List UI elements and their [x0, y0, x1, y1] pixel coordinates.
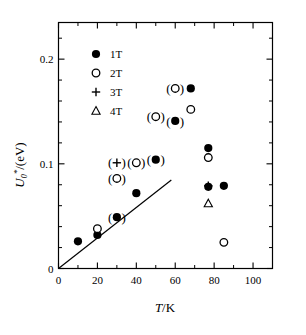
legend: 1T2T3T4T [92, 48, 123, 117]
y-tick-label: 0.2 [40, 53, 54, 65]
y-axis-title: U0*/(eV) [12, 142, 29, 187]
data-point-1t [132, 189, 140, 197]
data-point-1t [152, 156, 160, 164]
y-tick-label: 0.1 [40, 158, 54, 170]
paren-left: ( [166, 114, 170, 129]
paren-left: ( [108, 210, 112, 225]
data-point-1t [220, 182, 228, 190]
x-axis-major-ticks [59, 23, 254, 269]
paren-left: ( [147, 152, 151, 167]
plot-frame [59, 23, 273, 269]
legend-marker-3t [92, 88, 100, 96]
data-point-2t [94, 225, 102, 233]
x-tick-label: 60 [170, 274, 182, 286]
legend-marker-1t [92, 50, 100, 58]
data-point-2t [113, 175, 121, 183]
paren-right: ) [160, 109, 164, 124]
paren-right: ) [180, 114, 184, 129]
x-tick-label: 40 [131, 274, 143, 286]
data-point-1t [113, 213, 121, 221]
legend-label-3t: 3T [110, 86, 123, 98]
data-point-1t [204, 144, 212, 152]
y-tick-label: 0 [48, 263, 54, 275]
svg-text:U0*/(eV): U0*/(eV) [12, 142, 29, 187]
data-point-1t [74, 237, 82, 245]
data-point-2t [171, 85, 179, 93]
paren-left: ( [166, 81, 170, 96]
data-point-4t [204, 199, 212, 207]
legend-label-1t: 1T [110, 48, 123, 60]
paren-left: ( [108, 155, 112, 170]
data-point-2t [205, 154, 213, 162]
paren-right: ) [121, 155, 125, 170]
legend-label-2t: 2T [110, 67, 123, 79]
legend-label-4t: 4T [110, 105, 123, 117]
data-point-1t [171, 117, 179, 125]
x-tick-label: 100 [245, 274, 262, 286]
y-axis-tick-labels: 00.10.2 [40, 53, 54, 274]
paren-left: ( [108, 171, 112, 186]
legend-marker-2t [92, 69, 100, 77]
data-point-markers: ()()()()()()()() [74, 81, 228, 246]
data-point-2t [152, 113, 160, 121]
paren-left: ( [127, 155, 131, 170]
data-point-2t [133, 159, 141, 167]
x-tick-label: 80 [209, 274, 221, 286]
data-point-1t [187, 84, 195, 92]
paren-right: ) [121, 210, 125, 225]
x-tick-label: 0 [56, 274, 62, 286]
x-tick-label: 20 [92, 274, 104, 286]
y-axis-title-units: /(eV) [12, 142, 27, 169]
paren-right: ) [141, 155, 145, 170]
x-axis-tick-labels: 020406080100 [56, 274, 262, 286]
figure-container: 020406080100 00.10.2 ()()()()()()()() 1T… [0, 0, 306, 335]
scatter-plot: 020406080100 00.10.2 ()()()()()()()() 1T… [0, 0, 306, 335]
x-axis-title: T/K [155, 300, 176, 315]
paren-right: ) [180, 81, 184, 96]
legend-marker-4t [92, 107, 100, 115]
y-axis-minor-ticks [59, 38, 273, 247]
data-point-2t [187, 106, 195, 114]
trend-line [59, 180, 172, 268]
data-point-3t [113, 159, 121, 167]
x-axis-title-units: /K [162, 300, 176, 315]
paren-left: ( [147, 109, 151, 124]
paren-right: ) [121, 171, 125, 186]
data-point-2t [220, 239, 228, 247]
paren-right: ) [160, 152, 164, 167]
